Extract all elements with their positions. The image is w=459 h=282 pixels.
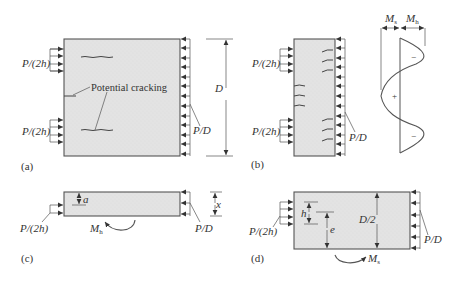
panel-c: P/(2h) P/D a x Mh (c): [19, 192, 222, 265]
panel-c-right-load: [181, 192, 200, 222]
panel-b-label-mh: Mh: [405, 12, 419, 26]
panel-b-left-load-bottom: [280, 120, 293, 142]
panel-a-right-load: [181, 39, 190, 156]
panel-b-sign-bottom: −: [411, 131, 416, 141]
panel-c-label-x: x: [215, 198, 221, 210]
panel-d-label-right: P/D: [423, 233, 442, 245]
panel-d-block: [294, 192, 410, 249]
panel-c-block: [64, 192, 180, 216]
panel-c-label-left: P/(2h): [19, 222, 48, 235]
panel-b-moment-diagram: [381, 28, 425, 153]
panel-d-label-half-depth: D/2: [358, 213, 376, 225]
panel-c-label-right: P/D: [194, 222, 213, 234]
panel-a-label-left-bottom: P/(2h): [21, 125, 50, 138]
panel-a-label-d: D: [214, 82, 223, 94]
panel-a-annotation: Potential cracking: [91, 82, 168, 93]
panel-d: P/(2h) P/D h e D/2: [248, 192, 442, 266]
panel-c-label-a: a: [83, 193, 89, 205]
panel-d-caption: (d): [251, 252, 264, 265]
panel-c-caption: (c): [21, 252, 34, 265]
panel-d-label-ms: Ms: [367, 252, 380, 266]
panel-d-moment-arrow: [335, 255, 366, 263]
structural-diagram: P/(2h) P/(2h) P/D: [0, 0, 459, 282]
panel-d-label-h: h: [301, 207, 307, 219]
panel-a-left-load-bottom: [50, 120, 63, 142]
panel-c-left-load: [42, 205, 63, 222]
panel-b-left-load-top: [280, 49, 293, 71]
panel-b-label-left-top: P/(2h): [251, 57, 280, 70]
panel-a-label-right: P/D: [192, 124, 211, 136]
panel-a: P/(2h) P/(2h) P/D: [21, 39, 233, 173]
panel-c-moment-arrow: [105, 220, 135, 230]
panel-b-sign-top: −: [411, 52, 416, 62]
panel-d-left-load: [273, 202, 293, 227]
panel-b: P/(2h) P/(2h) P/D: [251, 12, 425, 171]
panel-b-sign-mid: +: [392, 91, 397, 101]
panel-b-right-load: [336, 39, 345, 156]
panel-a-left-load-top: [50, 49, 64, 71]
panel-a-label-left-top: P/(2h): [21, 57, 50, 70]
panel-b-caption: (b): [251, 158, 264, 171]
panel-a-caption: (a): [21, 160, 34, 173]
panel-b-label-right: P/D: [348, 131, 367, 143]
panel-d-label-e: e: [330, 223, 335, 235]
panel-c-label-mh: Mh: [89, 222, 103, 236]
panel-d-label-left: P/(2h): [248, 225, 277, 238]
panel-b-label-left-bottom: P/(2h): [251, 125, 280, 138]
panel-a-dimension-d: [206, 39, 233, 156]
panel-b-label-ms: Ms: [384, 12, 397, 26]
